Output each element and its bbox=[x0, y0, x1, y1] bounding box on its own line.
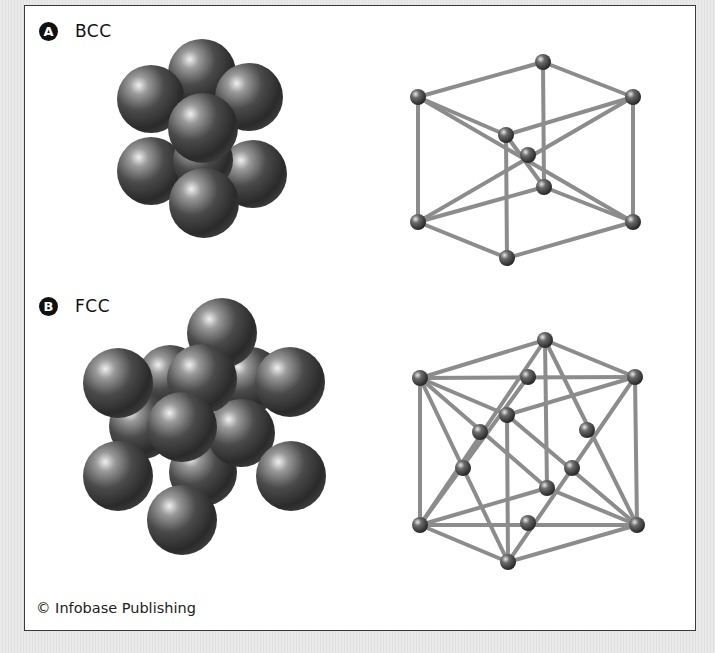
bcc-sphere-model bbox=[117, 39, 287, 238]
copyright-credit: © Infobase Publishing bbox=[36, 600, 196, 616]
fcc-sphere-model bbox=[83, 298, 326, 555]
crystal-structures-illustration bbox=[0, 0, 715, 653]
